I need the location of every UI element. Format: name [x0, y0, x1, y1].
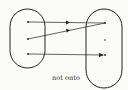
codomain-set-oval [86, 9, 122, 88]
arrowhead-icon [66, 21, 70, 25]
diagram-caption: not onto [46, 74, 86, 82]
arrowhead-icon [99, 53, 104, 57]
function-mapping-diagram: not onto [0, 0, 128, 90]
domain-point-a1 [27, 21, 29, 23]
codomain-point-b2-unmapped [104, 39, 106, 41]
codomain-point-b3 [104, 54, 106, 56]
mapping-arrow-a3-b3 [28, 53, 104, 57]
mapping-arrow-a1-b1 [28, 21, 105, 25]
domain-point-a3 [27, 53, 29, 55]
domain-point-a2 [27, 38, 29, 40]
mapping-arrow-a2-b1 [28, 23, 105, 39]
codomain-point-b1 [104, 22, 106, 24]
